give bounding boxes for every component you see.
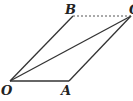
label-C: C bbox=[129, 3, 133, 16]
segment-OC bbox=[10, 16, 131, 81]
parallelogram-diagram: B C O A bbox=[0, 0, 133, 101]
label-B: B bbox=[65, 3, 76, 16]
segment-AC bbox=[69, 16, 131, 81]
label-O: O bbox=[1, 84, 12, 97]
segment-OB bbox=[10, 16, 73, 81]
label-A: A bbox=[61, 84, 71, 97]
